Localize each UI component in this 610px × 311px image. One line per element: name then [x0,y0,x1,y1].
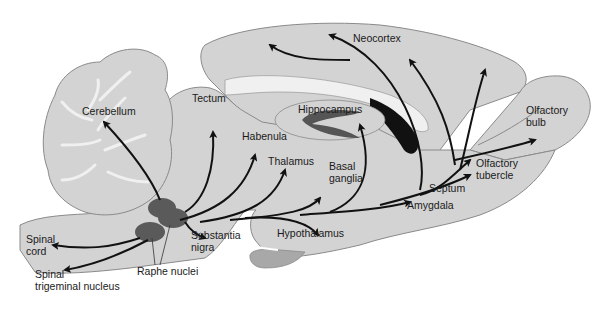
label-substantia-nigra: Substantia nigra [191,229,241,253]
pituitary [250,249,305,268]
label-thalamus: Thalamus [268,155,314,167]
label-cerebellum: Cerebellum [82,105,136,117]
label-hippocampus: Hippocampus [298,103,362,115]
label-neocortex: Neocortex [353,32,401,44]
label-olfactory-bulb: Olfactory bulb [526,104,568,128]
label-habenula: Habenula [242,130,287,142]
label-septum: Septum [429,182,465,194]
cerebellum-region [43,49,172,215]
label-basal-ganglia: Basal ganglia [329,160,363,184]
label-amygdala: Amygdala [407,199,454,211]
label-hypothalamus: Hypothalamus [277,227,344,239]
label-olfactory-tubercle: Olfactory tubercle [476,157,518,181]
label-spinal-cord: Spinal cord [26,233,55,257]
label-spinal-trigeminal-nucleus: Spinal trigeminal nucleus [35,268,120,292]
label-tectum: Tectum [192,92,226,104]
label-raphe-nuclei: Raphe nuclei [137,265,198,277]
